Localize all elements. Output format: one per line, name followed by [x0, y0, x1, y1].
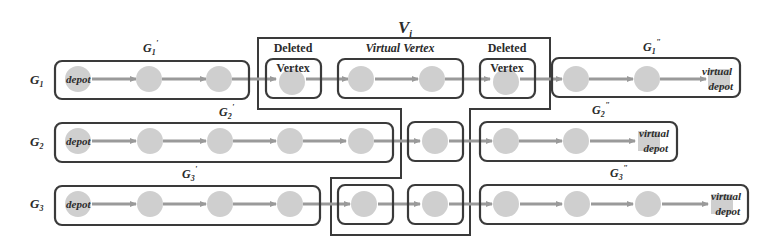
virtual-vertex-node [419, 66, 445, 92]
depot-label: depot [66, 198, 91, 210]
vertex-node [634, 66, 660, 92]
vertex-node [493, 128, 519, 154]
row-label-g2: G2 [30, 134, 43, 151]
g2-suffix-label: G2" [592, 100, 610, 119]
g1-prefix-label: G1' [143, 38, 159, 57]
vertex-node [635, 191, 661, 217]
virtual-vertex-label: Virtual Vertex [365, 41, 434, 55]
vertex-node [348, 128, 374, 154]
row-g3: G3 G3' G3" depot virtual depot [30, 163, 748, 225]
virtual-depot-label-line1: virtual [639, 127, 670, 139]
g1-suffix-label: G1" [643, 37, 661, 56]
virtual-vertex-node [351, 191, 377, 217]
virtual-depot-label-line1: virtual [711, 190, 742, 202]
vertex-node [137, 128, 163, 154]
vertex-node [277, 128, 303, 154]
vertex-node [277, 191, 303, 217]
vertex-node [137, 191, 163, 217]
deleted-vertex-label-2-line2: Vertex [490, 61, 524, 75]
vertex-node [563, 66, 589, 92]
g2-prefix-label: G2' [219, 102, 235, 121]
vertex-node [493, 191, 519, 217]
virtual-depot-label-line2: depot [644, 142, 669, 154]
row-label-g1: G1 [30, 72, 43, 89]
route-split-diagram: Vi Deleted Virtual Vertex Deleted G1 G1'… [0, 0, 780, 251]
vertex-node [564, 191, 590, 217]
virtual-vertex-node [422, 128, 448, 154]
vertex-node [207, 128, 233, 154]
depot-label: depot [66, 135, 91, 147]
g3-suffix-label: G3" [610, 163, 628, 182]
depot-label: depot [66, 73, 91, 85]
vertex-node [563, 128, 589, 154]
deleted-vertex-label-2: Deleted [488, 41, 527, 55]
row-label-g3: G3 [30, 196, 43, 213]
virtual-vertex-node [422, 191, 448, 217]
vertex-node [206, 66, 232, 92]
virtual-depot-label-line2: depot [709, 80, 734, 92]
virtual-vertex-node [348, 66, 374, 92]
vi-group-label: Vi [398, 18, 412, 39]
g3-prefix-label: G3' [182, 164, 198, 183]
vertex-node [207, 191, 233, 217]
virtual-depot-label-line2: depot [716, 205, 741, 217]
deleted-vertex-label-1-line2: Vertex [276, 61, 310, 75]
vertex-node [136, 66, 162, 92]
deleted-vertex-label-1: Deleted [274, 41, 313, 55]
virtual-depot-label-line1: virtual [702, 65, 733, 77]
